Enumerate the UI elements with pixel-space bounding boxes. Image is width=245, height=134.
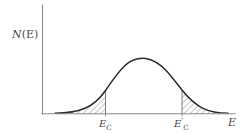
y-axis-label-argument: (E) <box>22 28 39 41</box>
distribution-curve <box>55 58 228 113</box>
x-tick-label-Ec-prime-subscript: C <box>183 123 189 132</box>
x-tick-label-Ec-prime: E′C <box>173 117 189 132</box>
y-axis-label-variable: N <box>11 28 22 41</box>
y-axis-label: N(E) <box>11 28 38 41</box>
right-tail-hatched-area <box>55 58 228 114</box>
hatched-areas-group <box>55 58 228 114</box>
x-tick-label-Ec: EC <box>98 118 112 132</box>
left-tail-hatched-area <box>55 58 228 114</box>
density-of-states-chart: N(E) EC E′C E <box>0 0 245 134</box>
figure-container: N(E) EC E′C E <box>0 0 245 134</box>
x-axis-label: E <box>227 116 236 129</box>
x-tick-label-Ec-subscript: C <box>106 123 112 132</box>
